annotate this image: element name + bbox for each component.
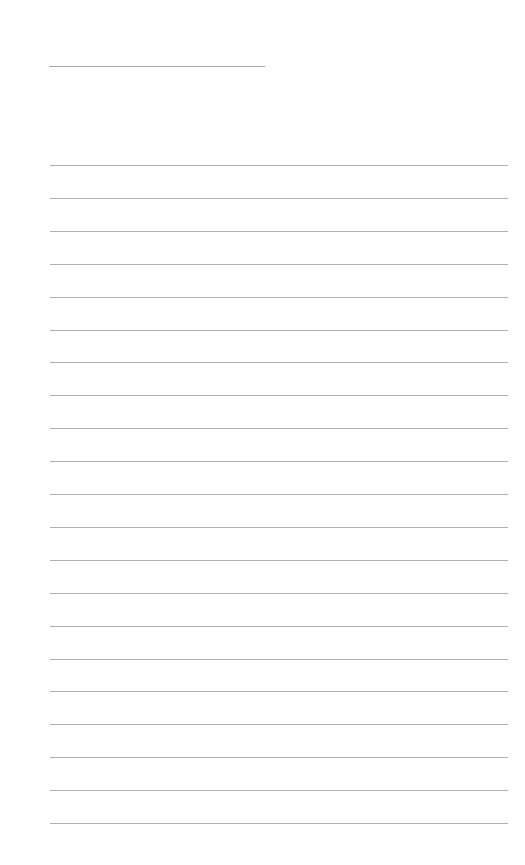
ruled-line: [50, 560, 508, 561]
ruled-line: [50, 461, 508, 462]
ruled-line: [50, 198, 508, 199]
title-line: [49, 66, 265, 67]
ruled-line: [50, 264, 508, 265]
ruled-line: [50, 395, 508, 396]
ruled-line: [50, 428, 508, 429]
ruled-line: [50, 823, 508, 824]
lined-paper-page: [0, 0, 525, 865]
ruled-line: [50, 790, 508, 791]
ruled-line: [50, 165, 508, 166]
ruled-line: [50, 527, 508, 528]
ruled-line: [50, 593, 508, 594]
ruled-line: [50, 691, 508, 692]
ruled-line: [50, 362, 508, 363]
ruled-line: [50, 231, 508, 232]
ruled-line: [50, 626, 508, 627]
ruled-line: [50, 330, 508, 331]
ruled-line: [50, 494, 508, 495]
ruled-line: [50, 297, 508, 298]
ruled-line: [50, 659, 508, 660]
ruled-line: [50, 757, 508, 758]
ruled-line: [50, 724, 508, 725]
